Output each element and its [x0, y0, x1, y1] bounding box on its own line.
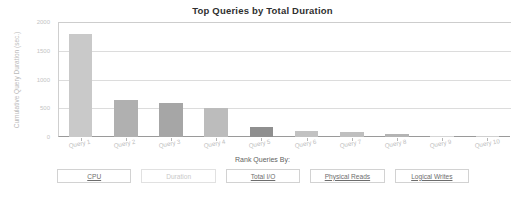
x-axis-tick-label: Query 8: [384, 138, 407, 149]
rank-button-cpu[interactable]: CPU: [57, 169, 131, 183]
rank-button-physical-reads[interactable]: Physical Reads: [310, 169, 384, 183]
x-axis-tick-label: Query 10: [474, 137, 500, 149]
x-axis-tick-label: Query 4: [203, 138, 226, 149]
top-queries-chart-panel: Top Queries by Total Duration Cumulative…: [0, 0, 525, 201]
bar[interactable]: [114, 100, 138, 137]
bar[interactable]: [69, 34, 93, 138]
y-axis-tick-label: 500: [8, 105, 54, 111]
bar[interactable]: [204, 108, 228, 137]
bar[interactable]: [340, 132, 364, 137]
chart-title: Top Queries by Total Duration: [0, 5, 525, 16]
y-axis-tick-label: 1500: [8, 48, 54, 54]
y-axis-tick-label: 2000: [8, 19, 54, 25]
bar[interactable]: [295, 131, 319, 137]
rank-button-duration: Duration: [141, 169, 215, 183]
x-axis-tick-label: Query 7: [339, 138, 362, 149]
x-axis-tick-label: Query 5: [248, 138, 271, 149]
x-axis-tick-label: Query 2: [113, 138, 136, 149]
x-axis-labels: Query 1Query 2Query 3Query 4Query 5Query…: [58, 138, 510, 156]
x-axis-tick-label: Query 9: [429, 138, 452, 149]
y-axis-tick-label: 0: [8, 134, 54, 140]
x-axis-tick-label: Query 6: [294, 138, 317, 149]
y-axis-tick-label: 1000: [8, 77, 54, 83]
rank-button-total-i-o[interactable]: Total I/O: [226, 169, 300, 183]
rank-queries-by-label: Rank Queries By:: [0, 156, 525, 163]
rank-button-logical-writes[interactable]: Logical Writes: [395, 169, 469, 183]
y-axis-ticks: 0500100015002000: [0, 22, 54, 138]
bar[interactable]: [385, 134, 409, 137]
bar-series: [58, 22, 510, 137]
bar[interactable]: [159, 103, 183, 138]
bar[interactable]: [250, 127, 274, 137]
x-axis-tick-label: Query 1: [68, 138, 91, 149]
x-axis-tick-label: Query 3: [158, 138, 181, 149]
rank-buttons-row: CPUDurationTotal I/OPhysical ReadsLogica…: [57, 169, 469, 183]
